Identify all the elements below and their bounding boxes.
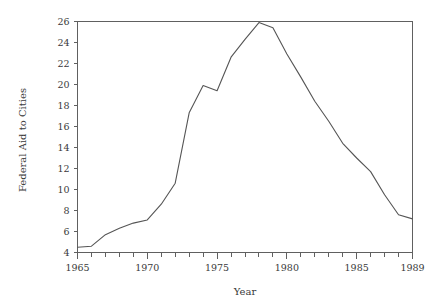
chart-figure: 468101214161820222426 196519701975198019… <box>0 0 443 308</box>
y-axis-ticks <box>74 22 78 253</box>
y-tick-label: 12 <box>57 163 69 174</box>
y-tick-label: 14 <box>57 142 69 153</box>
y-tick-label: 20 <box>57 79 69 90</box>
x-tick-label: 1989 <box>400 262 424 273</box>
y-tick-label: 4 <box>63 247 69 258</box>
y-tick-label: 16 <box>57 121 69 132</box>
y-tick-label: 26 <box>57 16 69 27</box>
plot-frame <box>78 22 413 253</box>
x-tick-label: 1970 <box>135 262 159 273</box>
plot-border <box>78 22 413 253</box>
x-tick-label: 1975 <box>205 262 229 273</box>
y-axis-tick-labels: 468101214161820222426 <box>57 16 69 258</box>
x-tick-label: 1965 <box>65 262 89 273</box>
x-tick-label: 1980 <box>275 262 299 273</box>
x-axis-ticks <box>78 253 413 259</box>
y-tick-label: 8 <box>63 205 69 216</box>
x-tick-label: 1985 <box>345 262 369 273</box>
y-tick-label: 22 <box>57 58 69 69</box>
x-axis-tick-labels: 196519701975198019851989 <box>65 262 424 273</box>
y-axis-title: Federal Aid to Cities <box>17 88 28 192</box>
line-chart: 468101214161820222426 196519701975198019… <box>0 0 443 308</box>
y-tick-label: 10 <box>57 184 69 195</box>
y-tick-label: 18 <box>57 100 69 111</box>
y-tick-label: 24 <box>57 37 69 48</box>
y-tick-label: 6 <box>63 226 69 237</box>
data-series-line <box>78 23 413 248</box>
x-axis-title: Year <box>233 286 257 297</box>
